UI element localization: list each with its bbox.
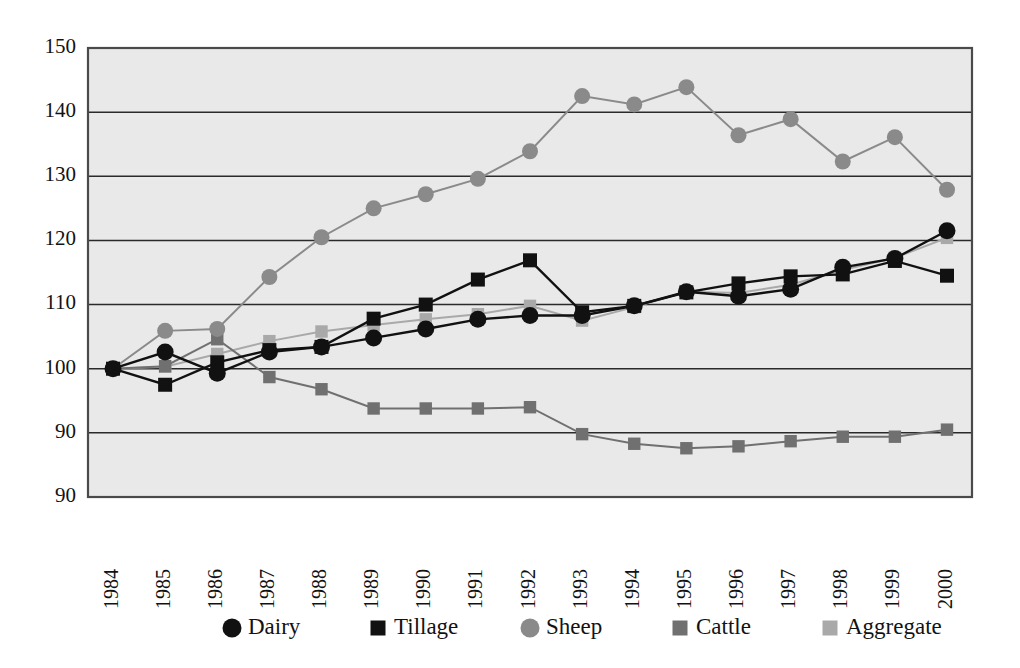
data-point-cattle-1996 bbox=[732, 440, 744, 452]
y-tick-label-120: 120 bbox=[45, 226, 77, 250]
legend-marker-sheep-icon bbox=[521, 619, 540, 638]
x-tick-label-1988: 1988 bbox=[308, 569, 330, 609]
data-point-dairy-2000 bbox=[939, 222, 956, 239]
data-point-cattle-1992 bbox=[524, 401, 536, 413]
data-point-dairy-1994 bbox=[626, 297, 643, 314]
x-tick-label-1992: 1992 bbox=[517, 569, 539, 609]
data-point-sheep-1997 bbox=[783, 111, 799, 127]
legend-label-sheep: Sheep bbox=[546, 614, 602, 639]
x-tick-label-1994: 1994 bbox=[621, 569, 643, 609]
y-tick-label-150: 150 bbox=[45, 34, 77, 58]
data-point-sheep-1996 bbox=[731, 127, 747, 143]
data-point-sheep-1991 bbox=[470, 171, 486, 187]
data-point-dairy-1991 bbox=[469, 311, 486, 328]
data-point-dairy-1984 bbox=[105, 360, 122, 377]
x-tick-label-1986: 1986 bbox=[204, 569, 226, 609]
chart-canvas: 1501401301201101009090 19841985198619871… bbox=[0, 0, 1020, 668]
data-point-dairy-1988 bbox=[313, 338, 330, 355]
data-point-sheep-1992 bbox=[522, 143, 538, 159]
data-point-dairy-1993 bbox=[574, 307, 591, 324]
data-point-sheep-1998 bbox=[835, 154, 851, 170]
legend-marker-tillage-icon bbox=[371, 621, 386, 636]
data-point-tillage-1989 bbox=[367, 312, 381, 326]
data-point-tillage-1992 bbox=[523, 253, 537, 267]
data-point-sheep-2000 bbox=[939, 182, 955, 198]
data-point-dairy-1990 bbox=[417, 320, 434, 337]
x-tick-label-1998: 1998 bbox=[829, 569, 851, 609]
data-point-sheep-1999 bbox=[887, 129, 903, 145]
data-point-sheep-1986 bbox=[209, 321, 225, 337]
data-point-sheep-1988 bbox=[314, 229, 330, 245]
data-point-cattle-1985 bbox=[159, 360, 171, 372]
data-point-sheep-1994 bbox=[626, 96, 642, 112]
data-point-dairy-1995 bbox=[678, 283, 695, 300]
legend-label-cattle: Cattle bbox=[696, 614, 751, 639]
y-tick-label-130: 130 bbox=[45, 162, 77, 186]
data-point-sheep-1985 bbox=[157, 323, 173, 339]
data-point-cattle-1990 bbox=[420, 402, 432, 414]
data-point-cattle-1999 bbox=[889, 431, 901, 443]
legend-marker-aggregate-icon bbox=[823, 621, 838, 636]
data-point-dairy-1989 bbox=[365, 329, 382, 346]
x-tick-label-1985: 1985 bbox=[152, 569, 174, 609]
x-tick-label-1993: 1993 bbox=[569, 569, 591, 609]
line-chart-figure: 1501401301201101009090 19841985198619871… bbox=[0, 0, 1020, 668]
data-point-cattle-2000 bbox=[941, 423, 953, 435]
legend-label-dairy: Dairy bbox=[248, 614, 301, 639]
legend-label-tillage: Tillage bbox=[394, 614, 458, 639]
data-point-dairy-1985 bbox=[157, 344, 174, 361]
x-tick-label-1995: 1995 bbox=[673, 569, 695, 609]
x-tick-label-1997: 1997 bbox=[777, 569, 799, 609]
data-point-dairy-1999 bbox=[886, 250, 903, 267]
y-tick-label-110: 110 bbox=[45, 290, 76, 314]
data-point-cattle-1989 bbox=[367, 402, 379, 414]
x-tick-label-1999: 1999 bbox=[881, 569, 903, 609]
y-tick-label-100: 100 bbox=[45, 355, 77, 379]
data-point-aggregate-1988 bbox=[315, 325, 327, 337]
legend-marker-cattle-icon bbox=[673, 621, 688, 636]
data-point-cattle-1988 bbox=[315, 383, 327, 395]
legend-marker-dairy-icon bbox=[223, 619, 242, 638]
x-tick-label-1996: 1996 bbox=[725, 569, 747, 609]
x-tick-label-1990: 1990 bbox=[412, 569, 434, 609]
data-point-dairy-1992 bbox=[522, 307, 539, 324]
data-point-dairy-1996 bbox=[730, 288, 747, 305]
data-point-sheep-1990 bbox=[418, 186, 434, 202]
data-point-cattle-1991 bbox=[472, 402, 484, 414]
data-point-dairy-1998 bbox=[834, 259, 851, 276]
data-point-dairy-1997 bbox=[782, 281, 799, 298]
data-point-sheep-1995 bbox=[678, 79, 694, 95]
data-point-cattle-1997 bbox=[784, 435, 796, 447]
data-point-cattle-1987 bbox=[263, 371, 275, 383]
x-tick-label-2000: 2000 bbox=[934, 569, 956, 609]
x-tick-label-1987: 1987 bbox=[256, 569, 278, 609]
x-tick-label-1989: 1989 bbox=[360, 569, 382, 609]
data-point-sheep-1987 bbox=[261, 269, 277, 285]
data-point-dairy-1987 bbox=[261, 344, 278, 361]
data-point-sheep-1993 bbox=[574, 88, 590, 104]
data-point-tillage-2000 bbox=[940, 269, 954, 283]
data-point-tillage-1985 bbox=[158, 378, 172, 392]
y-tick-label-140: 140 bbox=[45, 98, 77, 122]
x-tick-label-1984: 1984 bbox=[100, 569, 122, 609]
data-point-cattle-1994 bbox=[628, 438, 640, 450]
x-tick-label-1991: 1991 bbox=[464, 569, 486, 609]
data-point-cattle-1993 bbox=[576, 428, 588, 440]
data-point-cattle-1998 bbox=[837, 431, 849, 443]
y-axis-base-label: 90 bbox=[55, 483, 76, 507]
data-point-dairy-1986 bbox=[209, 365, 226, 382]
data-point-tillage-1991 bbox=[471, 273, 485, 287]
y-tick-label-90: 90 bbox=[55, 419, 76, 443]
legend-label-aggregate: Aggregate bbox=[846, 614, 942, 639]
data-point-cattle-1995 bbox=[680, 442, 692, 454]
data-point-tillage-1990 bbox=[419, 298, 433, 312]
data-point-sheep-1989 bbox=[366, 200, 382, 216]
